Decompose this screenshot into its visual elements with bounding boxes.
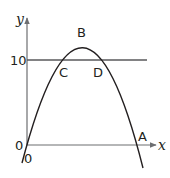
parabola-diagram: y x 10 0 0 B C D A (0, 0, 170, 178)
origin-label-left: 0 (15, 138, 23, 153)
x-axis-label: x (158, 137, 166, 153)
point-label-B: B (77, 25, 86, 40)
point-label-D: D (93, 65, 103, 80)
point-label-A: A (138, 129, 147, 144)
origin-label-below: 0 (24, 151, 32, 166)
value-label-10: 10 (10, 53, 27, 68)
parabola-curve (22, 48, 143, 168)
y-axis-label: y (15, 11, 25, 27)
point-label-C: C (59, 65, 68, 80)
